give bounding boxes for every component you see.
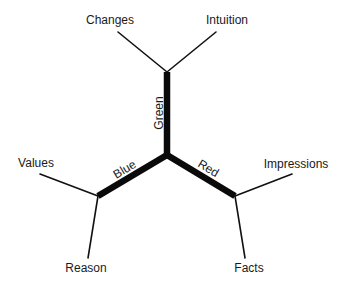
leaf-label-reason: Reason [65, 261, 106, 275]
leaf-labels: Changes Intuition Values Reason Impressi… [18, 13, 328, 275]
leaf-label-intuition: Intuition [206, 13, 248, 27]
leaf-line-impressions [235, 174, 292, 196]
leaf-line-changes [118, 32, 167, 72]
leaf-line-intuition [167, 32, 216, 72]
leaf-label-values: Values [18, 156, 54, 170]
color-tree-diagram: Green Blue Red Changes Intuition Values … [0, 0, 340, 287]
leaf-line-values [40, 174, 98, 196]
leaf-label-changes: Changes [86, 13, 134, 27]
leaf-line-facts [235, 196, 245, 258]
branch-label-green: Green [152, 96, 166, 129]
leaf-line-reason [88, 196, 98, 258]
leaf-label-impressions: Impressions [264, 157, 329, 171]
leaf-label-facts: Facts [234, 261, 263, 275]
